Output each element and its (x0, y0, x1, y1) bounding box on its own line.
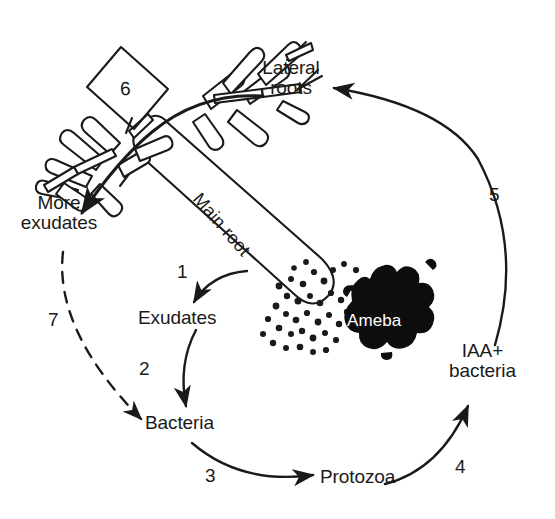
arrow-7-more-exudates-dashed-to-bacteria (62, 252, 141, 419)
ameba-blob (343, 259, 437, 360)
step-number-1: 1 (177, 262, 188, 281)
label-bacteria: Bacteria (145, 413, 214, 433)
label-iaa-bacteria: IAA+ bacteria (430, 341, 535, 381)
label-exudates: Exudates (138, 308, 216, 328)
step-number-3: 3 (205, 466, 216, 485)
step-number-2: 2 (139, 359, 150, 378)
label-ameba: Ameba (347, 311, 401, 331)
arrow-1-root-to-exudates (194, 271, 247, 302)
label-protozoa: Protozoa (320, 467, 395, 487)
label-lateral-roots: Lateral roots (239, 58, 343, 98)
diagram-canvas: Lateral roots More exudates Main root Ex… (0, 0, 555, 519)
arrow-2-exudates-to-bacteria (184, 330, 196, 406)
step-number-6: 6 (120, 78, 131, 100)
step-number-5: 5 (489, 185, 500, 204)
step-number-7: 7 (48, 310, 59, 329)
label-more-exudates: More exudates (4, 193, 114, 233)
step-number-4: 4 (455, 457, 466, 476)
